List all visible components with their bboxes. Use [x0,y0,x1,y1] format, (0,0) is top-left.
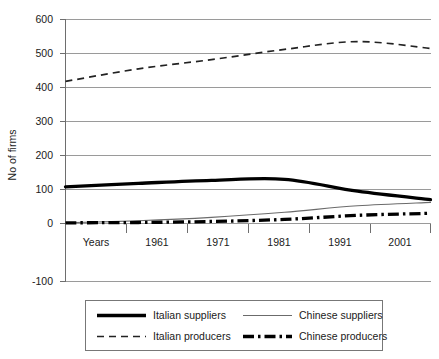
y-tick-label-100: 100 [35,183,53,195]
y-tick-label-600: 600 [35,13,53,25]
line-chart: 600 500 400 300 200 100 0 -100 No of fir… [0,0,439,359]
legend-label-chinese-producers: Chinese producers [299,330,387,342]
series-italian-producers [66,42,431,82]
gridlines [66,20,431,282]
x-tick-label-years: Years [83,236,109,248]
x-tick-label-1981: 1981 [267,236,291,248]
x-axis: Years 1961 1971 1981 1991 2001 [66,224,431,249]
y-tick-label-400: 400 [35,81,53,93]
y-tick-label-0: 0 [47,217,53,229]
x-tick-label-2001: 2001 [388,236,412,248]
x-tick-label-1991: 1991 [328,236,352,248]
y-tick-label-300: 300 [35,115,53,127]
y-tick-label-500: 500 [35,47,53,59]
chart-container: 600 500 400 300 200 100 0 -100 No of fir… [0,0,439,359]
legend-label-italian-producers: Italian producers [153,330,231,342]
x-tick-label-1971: 1971 [206,236,230,248]
y-axis: 600 500 400 300 200 100 0 -100 No of fir… [6,13,66,287]
y-tick-label-minus100: -100 [32,275,53,287]
legend-label-italian-suppliers: Italian suppliers [153,309,226,321]
legend-border [86,301,383,351]
legend-label-chinese-suppliers: Chinese suppliers [299,309,382,321]
legend: Italian suppliers Chinese suppliers Ital… [86,301,388,351]
x-tick-label-1961: 1961 [145,236,169,248]
data-series-group [66,42,431,223]
y-tick-label-200: 200 [35,149,53,161]
y-axis-title: No of firms [6,130,18,181]
